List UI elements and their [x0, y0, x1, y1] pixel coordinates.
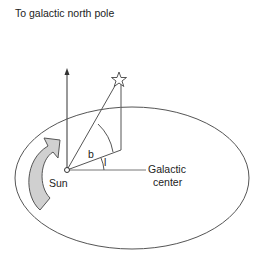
latitude-label: b — [88, 148, 94, 160]
star-icon — [112, 72, 127, 87]
rotation-arrow-icon — [29, 138, 60, 210]
galactic-coordinates-diagram — [0, 0, 260, 260]
sun-icon — [65, 168, 70, 173]
longitude-label: l — [104, 156, 106, 168]
galactic-center-label-2: center — [153, 176, 182, 188]
latitude-arc — [98, 124, 113, 152]
north-pole-label: To galactic north pole — [15, 7, 114, 19]
projection-line — [67, 150, 121, 170]
arrowhead-icon — [65, 68, 70, 75]
galactic-center-label-1: Galactic — [148, 163, 186, 175]
sun-label: Sun — [49, 177, 68, 189]
